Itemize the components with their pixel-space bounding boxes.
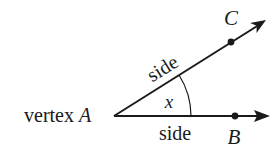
- angle-arc: [179, 75, 191, 116]
- angle-label: x: [164, 91, 174, 112]
- upper-side-label: side: [143, 50, 182, 86]
- point-b-label: B: [228, 125, 241, 149]
- angle-diagram: vertex A side side x C B: [0, 0, 275, 161]
- lower-side-label: side: [159, 122, 191, 144]
- ray-ac: [114, 23, 262, 116]
- point-b-dot: [232, 113, 239, 120]
- point-c-dot: [228, 39, 235, 46]
- vertex-prefix: vertex: [24, 104, 74, 126]
- vertex-point-label: A: [77, 104, 92, 126]
- arrow-c-icon: [250, 20, 266, 33]
- vertex-label: vertex A: [24, 104, 92, 126]
- point-c-label: C: [224, 6, 239, 30]
